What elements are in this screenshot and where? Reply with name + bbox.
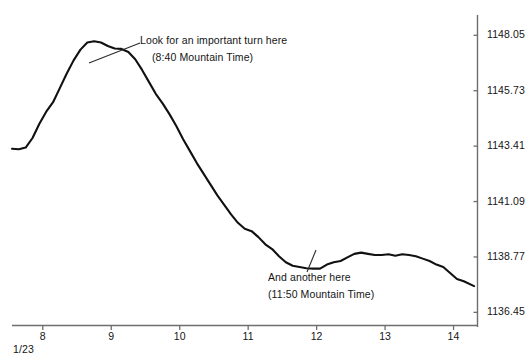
x-axis-tick-label: 13: [379, 330, 391, 342]
annotation-turn-line-1: Look for an important turn here: [140, 32, 287, 49]
annotation-another-line-2: (11:50 Mountain Time): [268, 286, 374, 303]
x-axis-tick-label: 11: [243, 330, 254, 342]
y-axis-tick-label: 1145.73: [487, 84, 525, 96]
x-axis-tick-label: 9: [108, 330, 114, 342]
price-line: [12, 41, 474, 286]
y-axis-tick-label: 1141.09: [487, 195, 525, 207]
annotation-leader-turn: [89, 43, 140, 63]
x-axis-tick-label: 10: [174, 330, 186, 342]
y-axis-tick-label: 1143.41: [487, 139, 525, 151]
annotation-another-line-1: And another here: [268, 269, 374, 286]
y-axis-tick-label: 1136.45: [487, 305, 525, 317]
x-axis-date-label: 1/23: [13, 343, 34, 355]
annotation-another: And another here (11:50 Mountain Time): [268, 269, 374, 303]
annotation-leader-lines: [89, 43, 316, 272]
x-axis-tick-label: 12: [311, 330, 323, 342]
y-axis-tick-label: 1148.05: [487, 28, 525, 40]
x-axis-tick-label: 8: [40, 330, 46, 342]
annotation-turn: Look for an important turn here (8:40 Mo…: [140, 32, 287, 66]
line-chart: Look for an important turn here (8:40 Mo…: [0, 0, 532, 359]
y-axis-tick-label: 1138.77: [487, 250, 525, 262]
x-axis-tick-label: 14: [448, 330, 460, 342]
annotation-turn-line-2: (8:40 Mountain Time): [140, 49, 287, 66]
